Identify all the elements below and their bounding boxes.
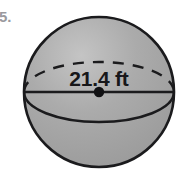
problem-number-label: 5. [0,8,12,25]
sphere-figure-container: 21.4 ft 5. [0,0,187,186]
sphere-figure-svg: 21.4 ft 5. [0,0,187,186]
diameter-measure-label: 21.4 ft [69,67,128,90]
